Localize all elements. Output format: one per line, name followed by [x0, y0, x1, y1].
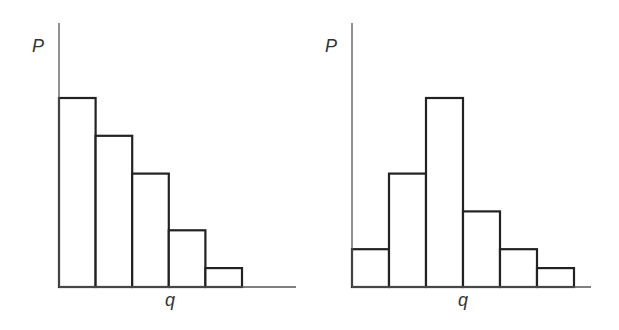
histogram-bar [132, 174, 169, 287]
histogram-bar [205, 268, 242, 287]
histogram-bar [59, 98, 96, 287]
x-axis-label: q [165, 290, 175, 310]
y-axis-label: P [325, 36, 337, 56]
y-axis-label: P [32, 36, 44, 56]
histogram-bar [500, 249, 537, 287]
x-axis-label: q [458, 290, 468, 310]
histogram-bar [169, 230, 206, 287]
histogram-bar [352, 249, 389, 287]
histogram-bar [426, 98, 463, 287]
histogram-bar [537, 268, 574, 287]
histogram-bar [389, 174, 426, 287]
histogram-panel-2: Pq [325, 23, 591, 310]
histogram-figure: PqPq [0, 0, 619, 330]
histogram-panel-1: Pq [32, 23, 296, 310]
histogram-bar [463, 211, 500, 287]
histogram-bar [96, 136, 133, 287]
